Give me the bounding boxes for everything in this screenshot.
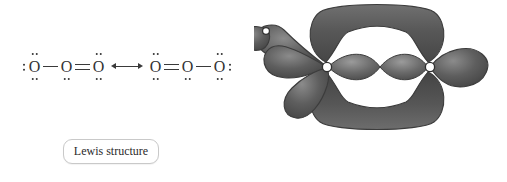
lewis-atom-o5: O: [179, 46, 196, 88]
lone-pair-bottom: [63, 78, 70, 80]
atom-label: O: [93, 59, 105, 75]
sigma-bond-lobe-right: [380, 54, 428, 80]
oxygen-atom-center-left: [322, 62, 331, 71]
lone-pair-bottom: [31, 78, 38, 80]
lone-pair-bottom: [152, 78, 159, 80]
resonance-form-2: O O O: [147, 46, 228, 88]
single-bond-o5-o6: [196, 61, 211, 73]
lone-pair-top: [216, 53, 223, 55]
lewis-structure-caption: Lewis structure: [63, 139, 159, 164]
atom-label: O: [214, 59, 226, 75]
double-bond-o2-o3: [75, 61, 90, 73]
lone-pair-top: [31, 53, 38, 55]
chemistry-figure: O O O: [0, 0, 507, 182]
lewis-resonance-row: O O O: [0, 44, 254, 90]
atom-label: O: [182, 59, 194, 75]
lone-pair-bottom: [95, 78, 102, 80]
lone-pair-top: [95, 53, 102, 55]
valence-bond-panel: Valence bond model: [254, 0, 507, 182]
lone-pair-bottom: [184, 78, 191, 80]
atom-label: O: [29, 59, 41, 75]
lone-pair-right: [229, 64, 231, 71]
double-bond-o4-o5: [164, 61, 179, 73]
delocalized-pi-cloud-top-lobe: [310, 5, 444, 63]
lone-pair-bottom: [216, 78, 223, 80]
lewis-atom-o2: O: [58, 46, 75, 88]
delocalized-pi-cloud-bottom-lobe: [310, 72, 444, 130]
atom-label: O: [150, 59, 162, 75]
resonance-form-1: O O O: [26, 46, 107, 88]
oxygen-atom-center-right: [425, 62, 434, 71]
single-bond-o1-o2: [43, 61, 58, 73]
lewis-atom-o1: O: [26, 46, 43, 88]
atom-label: O: [61, 59, 73, 75]
oxygen-atom-center-distal: [263, 28, 270, 35]
lewis-atom-o3: O: [90, 46, 107, 88]
lone-pair-top: [152, 53, 159, 55]
valence-bond-orbital-diagram: [254, 0, 507, 135]
lewis-atom-o4: O: [147, 46, 164, 88]
lewis-atom-o6: O: [211, 46, 228, 88]
lone-pair-left: [23, 64, 25, 71]
sigma-bond-lobe-left: [328, 54, 380, 80]
resonance-arrow-icon: [111, 61, 143, 73]
lewis-structure-panel: O O O: [0, 0, 254, 182]
